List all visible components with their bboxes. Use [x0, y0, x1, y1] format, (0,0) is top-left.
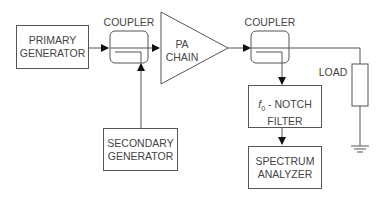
primary-generator-block: PRIMARY GENERATOR	[16, 25, 89, 69]
load-label: LOAD	[316, 66, 350, 78]
notch-filter-block: f0 - NOTCH FILTER	[248, 85, 322, 128]
coupler-1-symbol	[110, 31, 148, 63]
spectrum-analyzer-block: SPECTRUM ANALYZER	[248, 146, 322, 189]
notch-filter-line2: FILTER	[267, 115, 302, 128]
notch-filter-text: - NOTCH	[265, 98, 312, 110]
pa-chain-line2: CHAIN	[164, 51, 200, 64]
secondary-generator-block: SECONDARY GENERATOR	[103, 128, 178, 171]
coupler-2-symbol	[251, 31, 289, 63]
notch-filter-line1: f0 - NOTCH	[258, 85, 312, 115]
pa-chain-line1: PA	[164, 38, 200, 51]
pa-chain-label: PA CHAIN	[164, 38, 200, 64]
coupler-1-label: COUPLER	[100, 16, 158, 28]
coupler-2-label: COUPLER	[241, 16, 299, 28]
load-resistor	[352, 64, 368, 106]
